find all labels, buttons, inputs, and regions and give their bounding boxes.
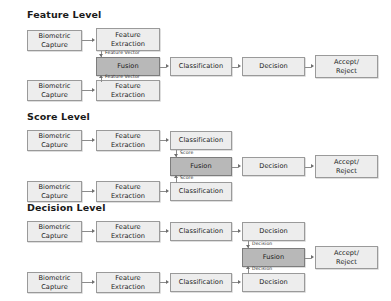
arrow-down-icon [246,245,250,248]
node-biometric-capture-top-score: Biometric Capture [27,130,82,151]
node-feature-extraction-bottom-score: Feature Extraction [96,181,160,202]
node-accept-reject-score: Accept/ Reject [315,155,378,178]
node-biometric-capture-bottom-decision: Biometric Capture [27,272,82,293]
node-classification-top-score: Classification [170,131,232,150]
node-biometric-capture-top-decision: Biometric Capture [27,221,82,242]
node-accept-reject-feature: Accept/ Reject [315,55,378,78]
section-title-decision-level: Decision Level [27,202,106,213]
node-decision-feature: Decision [242,57,305,76]
node-feature-extraction-top-feature: Feature Extraction [96,28,160,51]
node-classification-top-decision: Classification [170,222,232,241]
connector-line [82,40,92,41]
node-classification-bottom-decision: Classification [170,273,232,292]
arrow-right-icon [166,229,169,233]
node-accept-reject-decision: Accept/ Reject [315,246,378,269]
arrow-right-icon [92,138,95,142]
node-feature-extraction-top-score: Feature Extraction [96,130,160,151]
arrow-down-icon [99,54,103,57]
arrow-right-icon [238,164,241,168]
node-fusion-decision: Fusion [242,248,305,267]
edge-label-score-bottom: Score [180,175,193,180]
arrow-right-icon [166,189,169,193]
node-classification-bottom-score: Classification [170,182,232,201]
node-classification-feature: Classification [170,57,232,76]
edge-label-feature-vector-top: Feature Vector [105,50,140,55]
arrow-right-icon [238,280,241,284]
section-title-feature-level: Feature Level [27,9,101,20]
node-feature-extraction-bottom-decision: Feature Extraction [96,272,160,293]
node-biometric-capture-bottom-score: Biometric Capture [27,181,82,202]
connector-line [82,140,92,141]
edge-label-feature-vector-bottom: Feature Vector [105,74,140,79]
arrow-right-icon [92,38,95,42]
node-fusion-score: Fusion [170,157,232,176]
arrow-up-icon [99,75,103,78]
edge-label-score-top: Score [180,150,193,155]
arrow-right-icon [92,229,95,233]
arrow-right-icon [92,280,95,284]
connector-line [82,90,92,91]
arrow-right-icon [166,64,169,68]
node-decision-top-decision: Decision [242,222,305,241]
node-decision-bottom-decision: Decision [242,273,305,292]
arrow-right-icon [166,280,169,284]
node-biometric-capture-bottom-feature: Biometric Capture [27,80,82,101]
node-feature-extraction-bottom-feature: Feature Extraction [96,80,160,101]
arrow-right-icon [166,138,169,142]
arrow-right-icon [311,255,314,259]
biometric-fusion-diagram: Feature Level Biometric Capture Feature … [0,0,391,301]
edge-label-decision-bottom: Decision [252,266,272,271]
arrow-up-icon [246,266,250,269]
edge-label-decision-top: Decision [252,241,272,246]
arrow-down-icon [174,154,178,157]
arrow-right-icon [238,229,241,233]
arrow-right-icon [238,64,241,68]
node-feature-extraction-top-decision: Feature Extraction [96,221,160,242]
node-decision-score: Decision [242,157,305,176]
connector-line [82,191,92,192]
node-biometric-capture-top-feature: Biometric Capture [27,30,82,51]
connector-line [82,282,92,283]
arrow-right-icon [311,64,314,68]
arrow-right-icon [92,88,95,92]
section-title-score-level: Score Level [27,111,90,122]
arrow-right-icon [92,189,95,193]
arrow-up-icon [174,175,178,178]
arrow-right-icon [311,164,314,168]
connector-line [82,231,92,232]
